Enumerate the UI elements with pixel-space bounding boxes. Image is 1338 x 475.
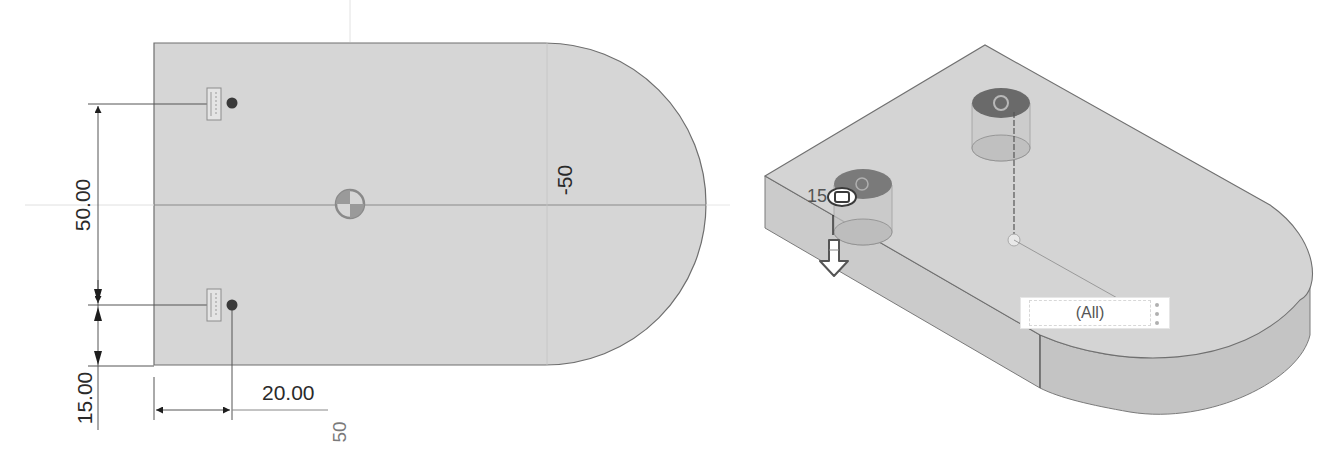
selection-filter-label: (All) [1076,304,1104,322]
arrow-down-upper [94,289,102,303]
hole-front[interactable] [834,169,892,245]
sketch-view[interactable]: 50.00 15.00 20.00 50 -50 [0,0,1338,475]
model-view[interactable]: 15 [765,45,1312,414]
dot [1155,303,1159,307]
arrow-down-edge [94,351,102,365]
reference-50-label[interactable]: 50 [329,421,350,442]
sketch-profile[interactable] [154,43,706,365]
dot [1155,321,1159,325]
dot [1155,312,1159,316]
coincident-constraint-icon [207,88,221,120]
vertical-ellipsis-icon[interactable] [1151,303,1163,325]
selection-filter-toolbar: (All) [1020,297,1170,329]
coincident-constraint-icon [207,289,221,321]
hole-depth-label[interactable]: 15 [807,186,827,206]
dimension-20-label[interactable]: 20.00 [262,381,315,404]
dimension-15-label[interactable]: 15.00 [73,372,96,425]
dimension-50-label[interactable]: 50.00 [71,179,94,232]
arrow-up-lower [94,307,102,321]
centerline-value-label[interactable]: -50 [553,165,576,195]
selection-filter-dropdown[interactable]: (All) [1029,300,1151,326]
origin-icon[interactable] [336,190,364,218]
